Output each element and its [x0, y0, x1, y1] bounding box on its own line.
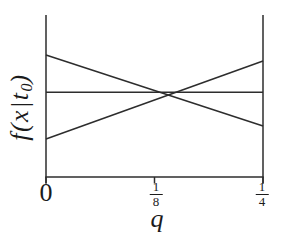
fraction-numerator: 1: [256, 181, 269, 194]
y-axis-label: f(x|t0): [7, 73, 36, 141]
x-tick-label-0: 0: [40, 180, 53, 206]
plot-canvas: [0, 0, 281, 250]
y-axis-label-post: ): [5, 73, 34, 83]
y-axis-label-subscript: 0: [18, 83, 35, 91]
y-axis-label-pre: f(x|t: [5, 91, 34, 140]
series-line-2: [46, 61, 263, 139]
x-tick-label-one-quarter: 1 4: [256, 181, 269, 209]
density-crossing-figure: 0 1 8 1 4 q f(x|t0): [0, 0, 281, 250]
fraction-numerator: 1: [150, 181, 163, 194]
series-line-0: [46, 55, 263, 126]
fraction-denominator: 4: [256, 194, 269, 208]
x-tick-label-0-text: 0: [40, 178, 53, 207]
x-axis-label: q: [151, 206, 164, 232]
